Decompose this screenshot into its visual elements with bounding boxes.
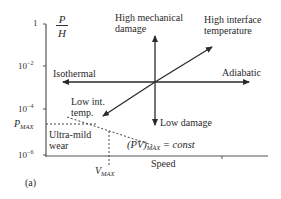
y-tick-1e-4: 10−4 <box>18 103 33 114</box>
x-axis-label-speed: Speed <box>151 158 175 169</box>
arrow-lower-left <box>103 82 155 116</box>
y-tick-1: 1 <box>33 18 38 28</box>
equation-pv-const: (PV)MAX = const <box>127 139 195 153</box>
y-axis-label-numerator: P <box>56 14 68 26</box>
label-high-mechanical-damage: High mechanicaldamage <box>115 12 183 34</box>
y-tick-1e-2: 10−2 <box>18 60 33 71</box>
panel-label: (a) <box>25 177 36 188</box>
label-high-interface-temperature: High interfacetemperature <box>204 14 261 36</box>
p-max-label: PMAX <box>14 118 33 132</box>
label-isothermal: Isothermal <box>53 68 96 79</box>
label-low-int-temp: Low int.temp. <box>71 96 105 118</box>
label-ultra-mild-wear: Ultra-mildwear <box>49 129 91 151</box>
y-tick-1e-6: 10−6 <box>18 149 33 160</box>
y-axis-label-denominator: H <box>56 28 68 39</box>
arrow-upper-right <box>155 47 212 82</box>
label-low-damage: Low damage <box>160 117 212 128</box>
label-adiabatic: Adiabatic <box>222 67 261 78</box>
v-max-label: VMAX <box>95 165 114 179</box>
